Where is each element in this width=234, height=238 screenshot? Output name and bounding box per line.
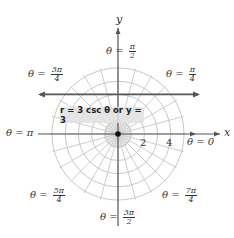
angle-label-5pi-over-4: θ = 5π4 — [30, 187, 65, 204]
angle-label-pi-over-2: θ = π2 — [106, 43, 136, 60]
angle-label-7pi-over-4: θ = 7π4 — [162, 187, 197, 204]
angle-label-0: θ = 0 — [187, 137, 214, 147]
y-axis-arrow-icon — [116, 28, 121, 34]
tick-2: 2 — [140, 137, 146, 148]
left-arrow-icon — [38, 91, 45, 97]
equation-text: r = 3 csc θ or y = 3 — [60, 105, 144, 125]
x-axis-arrow-icon — [214, 132, 220, 137]
pole-point — [115, 131, 121, 137]
tick-4: 4 — [166, 137, 172, 148]
angle-label-3pi-over-2: θ = 3π2 — [100, 209, 135, 226]
angle-label-3pi-over-4: θ = 3π4 — [28, 66, 63, 83]
equation-label: r = 3 csc θ or y = 3 — [60, 107, 144, 123]
x-axis-label: x — [224, 126, 230, 139]
y-axis-label: y — [116, 13, 122, 26]
angle-label-pi: θ = π — [6, 128, 33, 138]
right-arrow-icon — [193, 91, 200, 97]
angle-label-pi-over-4: θ = π4 — [166, 66, 196, 83]
